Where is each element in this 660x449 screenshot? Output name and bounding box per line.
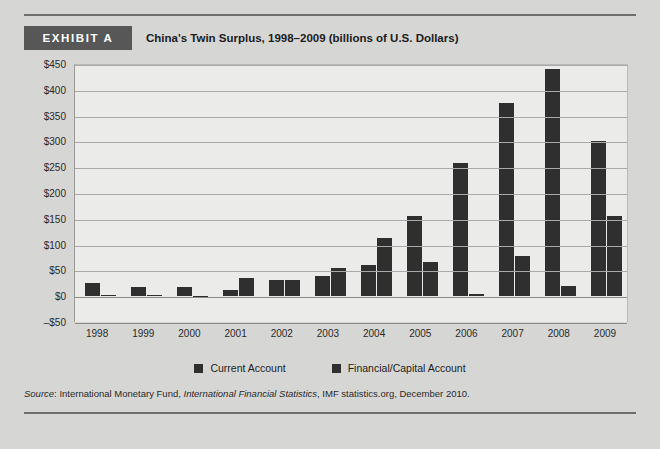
bar-current-account — [131, 287, 146, 296]
legend-swatch-icon — [332, 364, 341, 373]
x-axis: 1998199920002001200220032004200520062007… — [74, 328, 628, 346]
bar-current-account — [591, 141, 606, 296]
y-axis: $450$400$350$300$250$200$150$100$50$0–$5… — [24, 58, 72, 324]
x-axis-tick-label: 2003 — [305, 328, 351, 346]
gridline — [75, 142, 627, 143]
y-axis-tick-label: $0 — [55, 291, 66, 302]
x-axis-tick-label: 2000 — [166, 328, 212, 346]
bar-current-account — [361, 265, 376, 296]
bar-current-account — [315, 276, 330, 297]
legend-item: Financial/Capital Account — [332, 362, 466, 374]
bar-current-account — [269, 280, 284, 297]
x-axis-tick-label: 1999 — [120, 328, 166, 346]
y-axis-tick-label: $350 — [44, 110, 66, 121]
legend-label: Financial/Capital Account — [348, 362, 466, 374]
bar-financial-capital-account — [285, 280, 300, 297]
x-axis-tick-label: 2006 — [443, 328, 489, 346]
legend-swatch-icon — [194, 364, 203, 373]
bar-current-account — [223, 290, 238, 296]
x-axis-tick-label: 2001 — [213, 328, 259, 346]
y-axis-tick-label: $250 — [44, 162, 66, 173]
x-axis-tick-label: 2008 — [536, 328, 582, 346]
gridline — [75, 194, 627, 195]
bar-financial-capital-account — [147, 295, 162, 296]
bar-current-account — [85, 283, 100, 296]
gridline — [75, 168, 627, 169]
source-publisher: International Monetary Fund, — [59, 388, 183, 399]
gridline — [75, 271, 627, 272]
source-suffix: , IMF statistics.org, December 2010. — [317, 388, 470, 399]
x-axis-tick-label: 2002 — [259, 328, 305, 346]
bar-financial-capital-account — [515, 256, 530, 296]
bar-financial-capital-account — [423, 262, 438, 297]
exhibit-badge: EXHIBIT A — [24, 26, 132, 50]
x-axis-tick-label: 2005 — [397, 328, 443, 346]
bar-financial-capital-account — [239, 278, 254, 296]
bottom-divider — [24, 412, 636, 414]
chart-legend: Current AccountFinancial/Capital Account — [24, 362, 636, 374]
top-divider — [24, 14, 636, 16]
exhibit-header: EXHIBIT A China's Twin Surplus, 1998–200… — [24, 26, 636, 50]
exhibit-page: EXHIBIT A China's Twin Surplus, 1998–200… — [0, 0, 660, 449]
bar-financial-capital-account — [101, 295, 116, 296]
zero-line — [75, 297, 627, 298]
x-axis-tick-label: 2004 — [351, 328, 397, 346]
y-axis-tick-label: $400 — [44, 84, 66, 95]
gridline — [75, 65, 627, 66]
gridline — [75, 246, 627, 247]
y-axis-tick-label: $150 — [44, 213, 66, 224]
y-axis-tick-label: –$50 — [44, 317, 66, 328]
y-axis-tick-label: $200 — [44, 188, 66, 199]
gridline — [75, 220, 627, 221]
bar-financial-capital-account — [469, 294, 484, 297]
page-title: China's Twin Surplus, 1998–2009 (billion… — [132, 26, 636, 50]
legend-item: Current Account — [194, 362, 285, 374]
chart-container: $450$400$350$300$250$200$150$100$50$0–$5… — [24, 58, 636, 358]
source-prefix: Source — [24, 388, 54, 399]
y-axis-tick-label: $450 — [44, 59, 66, 70]
bar-current-account — [545, 69, 560, 296]
bar-current-account — [407, 216, 422, 296]
y-axis-tick-label: $300 — [44, 136, 66, 147]
y-axis-tick-label: $100 — [44, 239, 66, 250]
y-axis-tick-label: $50 — [49, 265, 66, 276]
bar-financial-capital-account — [607, 216, 622, 296]
plot-area — [74, 64, 628, 322]
bar-financial-capital-account — [561, 286, 576, 296]
legend-label: Current Account — [210, 362, 285, 374]
gridline — [75, 117, 627, 118]
bar-financial-capital-account — [377, 238, 392, 296]
bar-current-account — [499, 103, 514, 297]
bar-current-account — [177, 287, 192, 296]
x-axis-tick-label: 2007 — [490, 328, 536, 346]
bar-current-account — [453, 163, 468, 296]
source-note: Source: International Monetary Fund, Int… — [24, 388, 636, 399]
x-axis-tick-label: 2009 — [582, 328, 628, 346]
x-axis-tick-label: 1998 — [74, 328, 120, 346]
source-publication: International Financial Statistics — [184, 388, 318, 399]
gridline — [75, 91, 627, 92]
gridline — [75, 323, 627, 324]
